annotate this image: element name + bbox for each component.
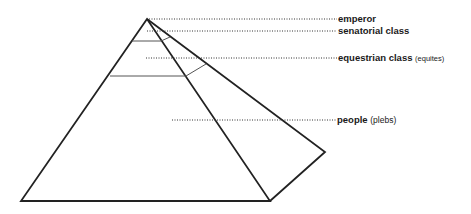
label-equestrian-text: equestrian class xyxy=(338,52,412,63)
label-equestrian-note: (equites) xyxy=(415,54,444,63)
tier-divider-senatorial xyxy=(132,37,170,41)
label-senatorial-text: senatorial class xyxy=(338,25,409,36)
pyramid-front-face xyxy=(21,19,270,201)
pyramid-side-face xyxy=(147,19,325,201)
label-people-text: people xyxy=(337,114,368,125)
label-senatorial: senatorial class xyxy=(338,26,409,36)
label-equestrian: equestrian class (equites) xyxy=(338,53,444,63)
tier-divider-equestrian xyxy=(110,64,206,76)
label-people-note: (plebs) xyxy=(370,115,396,125)
label-emperor-text: emperor xyxy=(338,13,376,24)
label-people: people (plebs) xyxy=(337,115,396,125)
label-emperor: emperor xyxy=(338,14,376,24)
